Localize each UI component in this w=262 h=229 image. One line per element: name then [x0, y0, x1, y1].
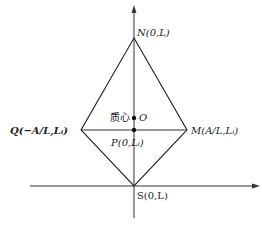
label-s: S(0,L) [137, 191, 168, 201]
label-n: N(0,L) [137, 28, 170, 38]
label-q: Q(−A/L,Lᵢ) [10, 126, 68, 136]
point-p [132, 128, 136, 132]
x-axis-arrow-icon [252, 184, 260, 189]
diagram-canvas [0, 0, 262, 229]
label-centroid: 质心 [110, 113, 130, 123]
y-axis-arrow-icon [132, 5, 137, 13]
label-m: M(A/L,Lᵢ) [191, 126, 238, 136]
label-o: O [139, 113, 147, 123]
label-p: P(0,Lᵢ) [111, 138, 144, 148]
centroid-point-o [132, 116, 136, 120]
